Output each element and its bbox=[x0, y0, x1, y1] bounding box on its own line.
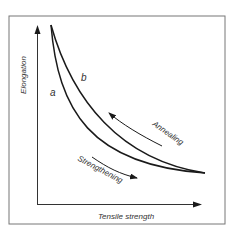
y-axis-label: Elongation bbox=[19, 56, 28, 94]
elongation-vs-tensile-strength-diagram: Elongation Tensile strength a b Annealin… bbox=[0, 0, 240, 240]
curve-b bbox=[51, 25, 205, 173]
x-axis-arrow-icon bbox=[193, 202, 202, 208]
curve-a bbox=[51, 25, 205, 173]
curve-b-label: b bbox=[81, 72, 87, 83]
x-axis-label: Tensile strength bbox=[98, 212, 155, 221]
strengthening-label: Strengthening bbox=[76, 154, 125, 186]
curve-a-label: a bbox=[50, 87, 56, 98]
annealing-arrow bbox=[109, 113, 162, 146]
y-axis-arrow-icon bbox=[35, 25, 41, 34]
figure-frame bbox=[9, 16, 225, 224]
